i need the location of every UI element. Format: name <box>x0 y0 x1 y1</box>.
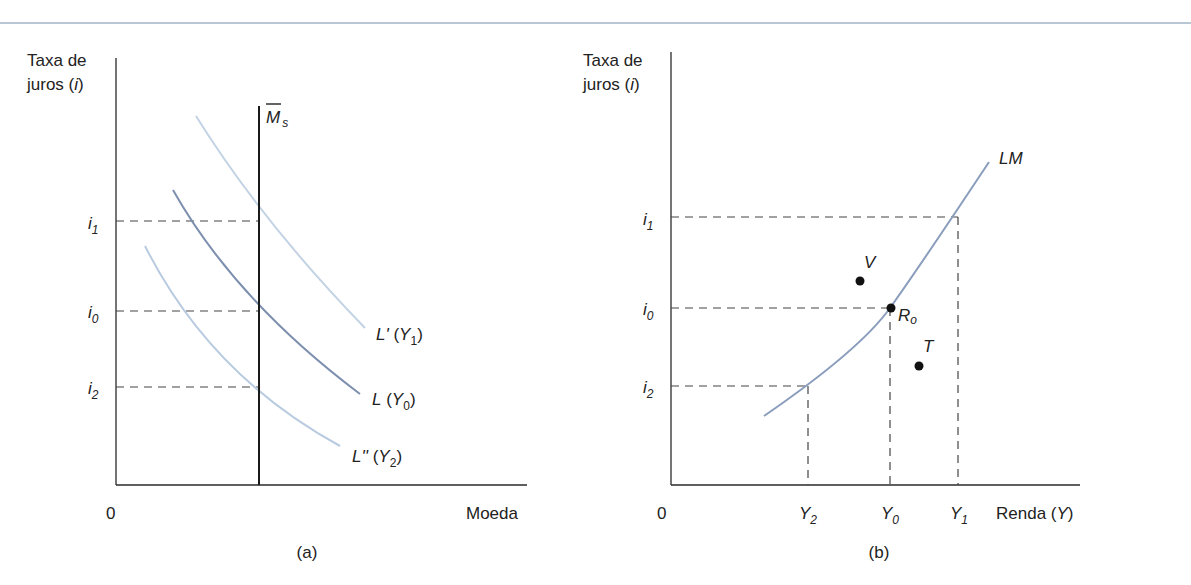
tick-y0: Y0 <box>881 504 899 527</box>
lm-curve <box>764 162 989 416</box>
label-l-double-prime-y2: L'' (Y2) <box>352 447 402 470</box>
tick-i0: i0 <box>88 303 99 326</box>
tick-i1: i1 <box>88 214 98 237</box>
y-axis-label-line1: Taxa de <box>583 51 643 70</box>
origin-label: 0 <box>106 504 115 523</box>
point-r0-label: Ro <box>898 306 917 327</box>
label-l-prime-y1: L' (Y1) <box>376 325 423 348</box>
caption-b: (b) <box>869 543 890 562</box>
y-axis-label-line1: Taxa de <box>27 51 87 70</box>
point-v <box>856 277 865 286</box>
curve-l-prime-y1 <box>196 116 365 328</box>
tick-y1: Y1 <box>950 504 968 527</box>
tick-i0: i0 <box>643 300 654 323</box>
tick-y2: Y2 <box>799 504 817 527</box>
money-supply-label: Ms <box>266 108 288 130</box>
panel-a: Taxa de juros (i) i1 i0 i2 Ms L' (Y1) L … <box>26 51 527 562</box>
y-axis-label-line2: juros (i) <box>26 75 84 94</box>
point-v-label: V <box>864 253 877 272</box>
y-axis-label-line2: juros (i) <box>582 75 640 94</box>
point-t-label: T <box>923 337 935 356</box>
point-t <box>915 362 924 371</box>
tick-i2: i2 <box>643 378 654 401</box>
ism-lm-diagram: Taxa de juros (i) i1 i0 i2 Ms L' (Y1) L … <box>0 0 1191 585</box>
tick-i1: i1 <box>643 210 653 233</box>
label-l-y0: L (Y0) <box>372 390 416 413</box>
x-axis-label: Moeda <box>466 504 519 523</box>
panel-b: Taxa de juros (i) i1 i0 i2 LM V Ro T Y2 … <box>582 51 1080 562</box>
x-axis-label: Renda (Y) <box>996 504 1074 523</box>
tick-i2: i2 <box>88 379 99 402</box>
point-r0 <box>887 304 896 313</box>
curve-l-double-prime-y2 <box>145 246 340 446</box>
origin-label: 0 <box>657 504 666 523</box>
caption-a: (a) <box>297 543 318 562</box>
lm-label: LM <box>999 149 1023 168</box>
